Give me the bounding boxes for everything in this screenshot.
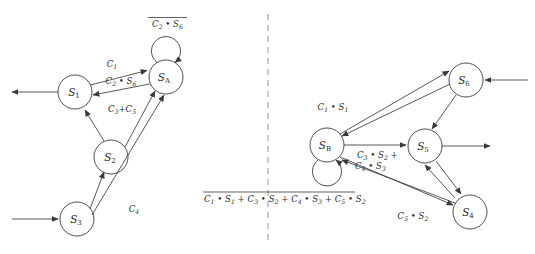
sb-self-loop xyxy=(312,160,341,186)
edge-s6-to-s5 xyxy=(432,95,456,129)
edge-s2-to-sa xyxy=(125,91,155,147)
state-label-sa: SA xyxy=(158,71,171,84)
sb-loop-label: C1 • S1 + C3 • S2 + C4 • S3 + C5 • S2 xyxy=(204,194,366,205)
edge-label-sb-to-s5-line2: C4 • S3 xyxy=(355,161,386,172)
edge-label-s6-to-sb: C1 • S1 xyxy=(318,102,349,113)
edge-s6-to-sb xyxy=(342,84,450,136)
sa-loop-label: C2 • S6 xyxy=(152,19,183,30)
edge-label-sb-to-s5-line1: C3 • S2 + xyxy=(357,150,398,161)
state-label-s4: S4 xyxy=(462,206,474,219)
state-diagram-svg: S1 SA S2 S3 C2 • S6 C1 C2 • S6 C3+C5 C4 xyxy=(0,0,535,254)
state-label-s2: S2 xyxy=(104,151,116,164)
sa-self-loop xyxy=(152,37,181,63)
edge-s5-to-s4 xyxy=(436,161,461,194)
left-state-machine: S1 SA S2 S3 C2 • S6 C1 C2 • S6 C3+C5 C4 xyxy=(12,18,187,237)
edge-s3-to-s2 xyxy=(90,172,104,209)
state-label-s1: S1 xyxy=(68,86,80,99)
state-label-s3: S3 xyxy=(70,213,82,226)
edge-label-s3-to-sa: C4 xyxy=(129,204,140,215)
edge-label-s2-to-s1: C3+C5 xyxy=(108,104,136,115)
state-label-s6: S6 xyxy=(458,74,470,87)
edge-s2-to-s1 xyxy=(85,110,104,141)
edge-sb-to-s6 xyxy=(340,71,449,134)
edge-label-sb-to-s4: C5 • S2 xyxy=(398,211,429,222)
edge-label-s1-to-sa: C1 xyxy=(107,59,118,70)
right-state-machine: SB S6 S5 S4 C1 • S1 C3 • S2 + C4 • S3 C5… xyxy=(203,63,528,229)
state-label-sb: SB xyxy=(319,139,331,152)
state-label-s5: S5 xyxy=(417,140,429,153)
figure-canvas: S1 SA S2 S3 C2 • S6 C1 C2 • S6 C3+C5 C4 xyxy=(0,0,535,254)
edge-label-sa-to-s1: C2 • S6 xyxy=(106,76,137,87)
